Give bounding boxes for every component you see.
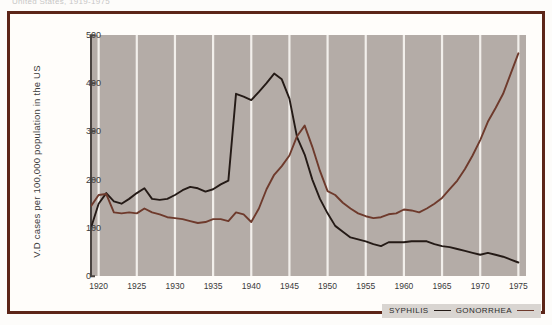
x-tick-label: 1970 [471, 281, 490, 291]
data-lines [91, 35, 526, 276]
x-tick-label: 1975 [509, 281, 528, 291]
chart-frame: V.D cases per 100,000 population in the … [7, 11, 545, 314]
series-line-syphilis [91, 74, 518, 263]
chart-legend: SYPHILIS GONORRHEA [382, 304, 541, 318]
y-axis-label: V.D cases per 100,000 population in the … [31, 57, 42, 267]
y-tick-mark [90, 82, 95, 84]
legend-swatch-gonorrhea [517, 310, 534, 312]
series-line-gonorrhea [91, 53, 518, 223]
x-tick-label: 1960 [394, 281, 413, 291]
x-tick-label: 1930 [165, 281, 184, 291]
x-tick-label: 1935 [204, 281, 223, 291]
legend-swatch-syphilis [434, 310, 451, 312]
y-tick-mark [90, 34, 95, 36]
x-tick-label: 1950 [318, 281, 337, 291]
legend-label-syphilis: SYPHILIS [389, 306, 429, 315]
x-tick-label: 1945 [280, 281, 299, 291]
x-tick-label: 1925 [127, 281, 146, 291]
partial-caption: United States, 1919-1975 [12, 0, 110, 7]
chart-page: United States, 1919-1975 V.D cases per 1… [0, 0, 552, 325]
y-tick-mark [90, 179, 95, 181]
plot-area: 0100200300400500192019251930193519401945… [64, 35, 526, 277]
x-tick-label: 1965 [433, 281, 452, 291]
x-tick-label: 1920 [89, 281, 108, 291]
x-tick-label: 1940 [242, 281, 261, 291]
legend-label-gonorrhea: GONORRHEA [456, 306, 513, 315]
y-tick-mark [90, 227, 95, 229]
x-tick-label: 1955 [356, 281, 375, 291]
y-tick-mark [90, 131, 95, 133]
y-tick-mark [90, 275, 95, 277]
